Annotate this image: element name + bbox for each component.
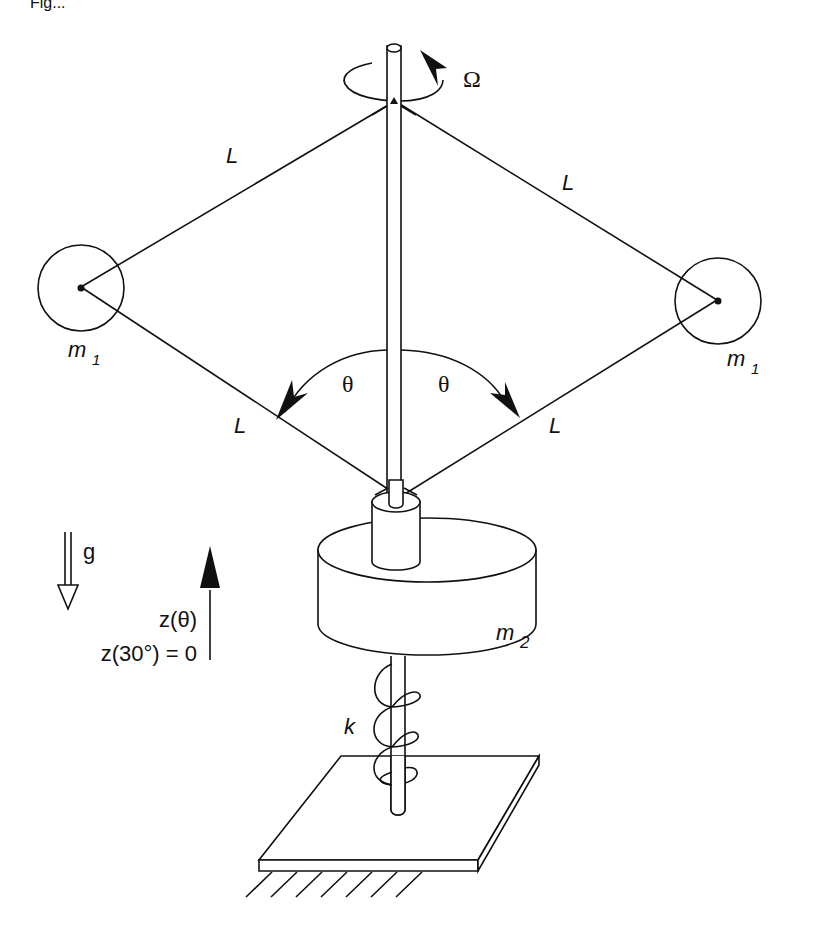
length-label-upper-right: L (562, 170, 574, 195)
pivot-right (715, 298, 722, 305)
theta-label-left: θ (342, 371, 354, 397)
gravity-label: g (83, 539, 95, 564)
caption-fragment: Fig... (30, 0, 66, 11)
mass-m2-label: m (496, 620, 514, 645)
base-plate-side (478, 756, 539, 871)
theta-arc-left (285, 350, 387, 412)
z-reference-label: z(30°) = 0 (101, 641, 197, 666)
mass-m2-subscript: 2 (519, 633, 530, 652)
gravity-arrow-icon (58, 532, 78, 609)
upper-right-link (395, 101, 717, 300)
z-theta-label: z(θ) (159, 607, 197, 632)
length-label-lower-right: L (549, 413, 561, 438)
base-plate-front (259, 860, 478, 871)
theta-label-right: θ (438, 371, 450, 397)
upper-left-link (81, 101, 395, 287)
z-axis-arrowhead-icon (200, 546, 220, 588)
mass-m1-right-subscript: 1 (751, 360, 759, 377)
mass-m1-right-label: m (727, 346, 745, 371)
shaft-in-collar (389, 480, 403, 508)
theta-arc-right (401, 350, 505, 402)
ground-hatch (246, 872, 422, 897)
mass-m1-left-label: m (68, 337, 86, 362)
lower-right-link (400, 300, 717, 497)
length-label-lower-left: L (234, 413, 246, 438)
vertical-shaft (387, 46, 401, 506)
mass-m2-top (318, 518, 536, 582)
length-label-upper-left: L (226, 143, 238, 168)
mass-m1-left-subscript: 1 (92, 351, 100, 368)
shaft-top (387, 44, 401, 52)
spring-label: k (344, 714, 356, 739)
pivot-left (78, 285, 85, 292)
flyball-governor-diagram: Fig... Ω θ θ L L L L m 1 m 1 m 2 (0, 0, 821, 925)
omega-label: Ω (463, 66, 481, 92)
